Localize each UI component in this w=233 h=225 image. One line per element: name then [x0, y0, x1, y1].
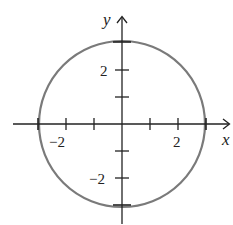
x-tick-label-neg2: −2 — [49, 134, 65, 150]
y-tick-label-2: 2 — [100, 63, 108, 79]
x-axis-label: x — [221, 130, 230, 149]
y-axis-label: y — [101, 10, 111, 29]
y-axis — [113, 17, 131, 225]
x-axis — [13, 118, 230, 130]
x-tick-label-2: 2 — [173, 134, 181, 150]
y-tick-label-neg2: −2 — [89, 171, 105, 187]
coordinate-plane: x y −2 2 2 −2 — [0, 0, 233, 224]
